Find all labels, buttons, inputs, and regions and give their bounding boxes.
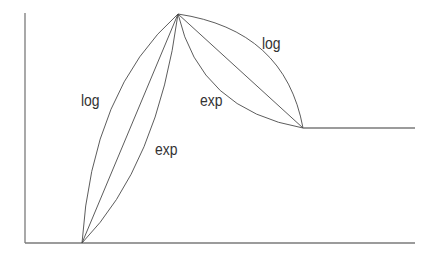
envelope-diagram (0, 0, 439, 254)
label-attack-log: log (81, 92, 100, 109)
label-decay-log: log (262, 35, 281, 52)
label-attack-exp: exp (155, 141, 177, 158)
label-decay-exp: exp (200, 92, 222, 109)
decay-linear-line (178, 14, 303, 128)
attack-linear-line (82, 14, 178, 243)
